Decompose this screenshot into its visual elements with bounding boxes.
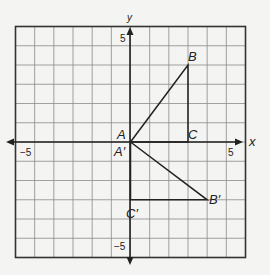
point-label-c-prime: C′ <box>126 206 138 221</box>
y-axis-up-arrow-icon <box>127 27 134 35</box>
point-label-a-prime: A′ <box>113 144 126 159</box>
point-label-a: A <box>116 127 126 142</box>
tick-label-y-5: 5 <box>120 33 126 44</box>
tick-label-y-neg5: −5 <box>114 241 126 252</box>
y-axis-down-arrow-icon <box>127 257 134 265</box>
point-label-c: C <box>188 127 198 142</box>
point-label-b-prime: B′ <box>209 192 221 207</box>
point-label-b: B <box>188 49 197 64</box>
y-axis-label: y <box>126 12 133 23</box>
x-axis-right-arrow-icon <box>235 139 243 146</box>
x-axis-left-arrow-icon <box>6 139 14 146</box>
tick-label-x-neg5: −5 <box>20 147 32 158</box>
tick-label-x-5: 5 <box>228 147 234 158</box>
coordinate-plane: x y −5 5 5 −5 A B C A′ B′ C′ <box>0 0 270 275</box>
x-axis-label: x <box>248 134 256 149</box>
